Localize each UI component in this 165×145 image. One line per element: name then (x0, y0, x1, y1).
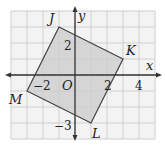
tick-label-x-2: 2 (104, 79, 112, 93)
origin-label: O (62, 78, 73, 93)
y-axis-up-arrow-icon (73, 6, 78, 12)
vertex-label-k: K (125, 43, 137, 58)
x-axis-left-arrow-icon (5, 73, 11, 78)
tick-label-y-neg3: −3 (54, 119, 72, 133)
tick-label-x-4: 4 (135, 79, 143, 93)
coordinate-plane: y x O 2 −3 −2 2 4 J K L M (0, 0, 165, 145)
tick-label-y-2: 2 (64, 39, 72, 53)
x-axis-right-arrow-icon (156, 73, 162, 78)
tick-label-x-neg2: −2 (33, 79, 51, 93)
vertex-label-l: L (91, 126, 101, 141)
x-axis-label: x (146, 58, 154, 73)
y-axis-label: y (77, 8, 86, 23)
vertex-label-m: M (8, 92, 23, 107)
